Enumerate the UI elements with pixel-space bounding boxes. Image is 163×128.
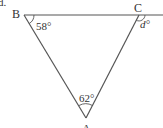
- vertex-label-b: B: [12, 7, 20, 21]
- angle-arc-b: [29, 15, 34, 24]
- angle-label-a: 62°: [79, 92, 94, 104]
- angle-label-b: 58°: [36, 20, 51, 32]
- problem-label: d.: [0, 0, 7, 8]
- triangle-diagram: d. B C A 58° 62° d°: [0, 0, 163, 128]
- vertex-label-a: A: [82, 122, 91, 128]
- vertex-label-c: C: [134, 1, 142, 15]
- angle-arc-a: [79, 104, 93, 106]
- side-ab: [24, 15, 86, 118]
- angle-label-c-exterior: d°: [140, 18, 151, 30]
